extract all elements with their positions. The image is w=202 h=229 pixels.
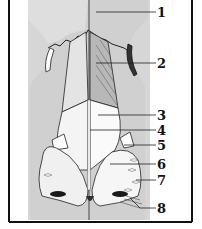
label-3: 3 <box>157 109 166 122</box>
septum-strip <box>88 100 91 190</box>
label-7: 7 <box>157 174 166 187</box>
label-8: 8 <box>157 202 166 215</box>
label-4: 4 <box>157 124 166 137</box>
label-1: 1 <box>157 6 166 19</box>
nostril-right <box>112 191 128 197</box>
nose-anatomy-figure <box>0 0 202 229</box>
label-6: 6 <box>157 158 166 171</box>
label-5: 5 <box>157 139 166 152</box>
nostril-left <box>50 191 66 197</box>
label-2: 2 <box>157 57 166 70</box>
